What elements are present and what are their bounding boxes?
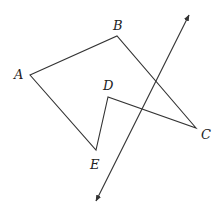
geometry-diagram: A B C D E: [0, 0, 221, 214]
label-a: A: [14, 68, 23, 81]
label-c: C: [201, 128, 211, 141]
label-e: E: [90, 158, 100, 171]
pentagon-abcde: [30, 36, 196, 150]
label-d: D: [103, 79, 113, 92]
double-arrow-line: [96, 15, 189, 201]
label-b: B: [113, 19, 123, 32]
diagram-svg: [0, 0, 221, 214]
